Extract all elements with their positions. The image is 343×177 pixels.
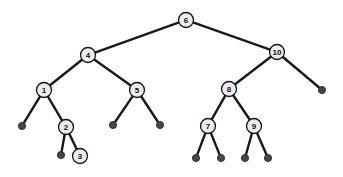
node-circle [247,119,262,134]
tree-edge-n6-n10 [194,23,270,50]
tree-edge-n5-L2 [115,97,132,122]
node-circle [59,120,74,135]
tree-node-6: 6 [179,13,194,28]
leaf-dot [57,151,64,158]
leaf-dot [217,154,224,161]
leaf-dot [192,154,199,161]
node-circle [222,82,237,97]
tree-edge-n10-L4 [283,57,319,87]
tree-node-3: 3 [73,149,88,164]
tree-leaf-L6 [192,154,199,161]
node-circle [179,13,194,28]
node-circle [270,45,285,60]
binary-tree-diagram: 64101582793 [0,0,343,177]
tree-node-8: 8 [222,82,237,97]
leaf-dot [18,122,25,129]
tree-edge-n4-n5 [95,60,131,86]
tree-leaf-L7 [217,154,224,161]
tree-edge-n9-L9 [257,133,266,154]
tree-node-9: 9 [247,119,262,134]
tree-edge-n8-n7 [212,96,225,119]
tree-edge-n10-n8 [235,57,270,84]
tree-edge-n4-n1 [50,60,81,85]
leaf-dot [318,86,325,93]
tree-node-5: 5 [130,83,145,98]
tree-leaf-L2 [109,121,116,128]
tree-edge-n9-L8 [246,134,252,154]
tree-node-10: 10 [270,45,285,60]
tree-node-1: 1 [37,83,52,98]
tree-edge-n1-L1 [24,97,40,123]
leaf-dot [109,121,116,128]
node-circle [130,83,145,98]
tree-node-4: 4 [81,48,96,63]
tree-edge-n1-n2 [48,97,62,120]
tree-leaf-L5 [57,151,64,158]
tree-edge-n7-L6 [197,134,205,154]
tree-leaf-L1 [18,122,25,129]
tree-edge-n2-n3 [70,134,77,148]
node-circle [201,119,216,134]
tree-node-2: 2 [59,120,74,135]
tree-leaf-L3 [156,121,163,128]
tree-edge-n6-n4 [96,23,179,53]
tree-node-7: 7 [201,119,216,134]
tree-edge-n5-L3 [141,97,157,122]
node-circle [37,83,52,98]
tree-edge-n7-L7 [211,134,219,155]
tree-leaf-L8 [241,154,248,161]
tree-canvas: 64101582793 [0,0,343,177]
leaf-dot [241,154,248,161]
tree-leaf-L4 [318,86,325,93]
leaf-dot [156,121,163,128]
tree-edge-n2-L5 [62,135,65,151]
node-circle [81,48,96,63]
tree-edge-n8-n9 [234,96,250,120]
node-circle [73,149,88,164]
tree-leaf-L9 [264,154,271,161]
leaf-dot [264,154,271,161]
